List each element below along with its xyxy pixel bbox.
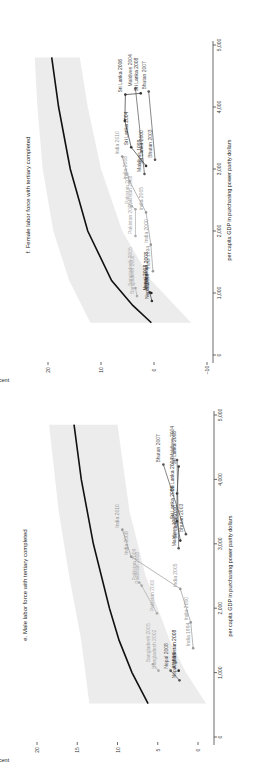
x-tick-label: 2,000 [216, 225, 222, 238]
data-point-label: India 2010 [114, 131, 120, 155]
data-point [134, 287, 137, 290]
data-point [136, 295, 139, 298]
x-tick-label: 4,000 [216, 101, 222, 114]
data-point [156, 612, 159, 615]
data-point-label: Bhutan 2003 [147, 129, 153, 158]
data-point-label: Maldives 2004 [127, 54, 133, 86]
x-tick-label: 5,000 [216, 39, 222, 52]
y-tick-label: 0 [195, 748, 201, 751]
data-point [124, 93, 127, 96]
data-point [134, 208, 137, 211]
x-axis-title: per capita GDP in purchasing power parit… [227, 515, 233, 636]
y-tick-label: 20 [45, 367, 51, 373]
y-axis-title: percent [0, 757, 10, 763]
data-point [162, 463, 165, 466]
data-point [150, 243, 153, 246]
data-point-label: India 1994 [185, 623, 191, 647]
data-point [121, 155, 124, 158]
y-tick-label: 10 [98, 367, 104, 373]
x-tick-label: 3,000 [217, 537, 223, 550]
x-tick-label: 3,000 [216, 163, 222, 176]
data-point [138, 581, 141, 584]
data-point-label: Nepal 2008 [163, 643, 169, 669]
data-point-label: Bangladesh 2002 [151, 630, 157, 669]
data-point-label: Sri Lanka 2006 [117, 59, 123, 93]
data-point-label: Afghanistan 2008 [143, 252, 149, 291]
data-point [169, 669, 172, 672]
data-point-label: Bhutan 2003 [178, 504, 184, 533]
data-point [130, 146, 133, 149]
data-point [176, 459, 179, 462]
female-labor-force-chart: 01,0002,0003,0004,0005,000–1001020per ca… [0, 0, 254, 390]
x-tick-label: 5,000 [217, 409, 223, 422]
y-tick-label: 15 [74, 747, 80, 753]
data-point-label: Maldives 1998 [136, 139, 142, 171]
data-point [177, 465, 180, 468]
y-tick-label: –10 [204, 366, 210, 375]
data-point [143, 173, 146, 176]
data-point [151, 300, 154, 303]
x-tick-label: 2,000 [217, 602, 223, 615]
data-point [121, 528, 124, 531]
data-point-label: India 2005 [138, 187, 144, 211]
data-point [134, 235, 137, 238]
data-point [179, 588, 182, 591]
data-point [179, 539, 182, 542]
y-axis-title: percent [0, 377, 10, 383]
data-point-label: Bhutan 2007 [155, 434, 161, 463]
data-point-label: Sri Lanka 2004 [123, 111, 129, 145]
data-point-label: India 2005 [172, 563, 178, 587]
data-point-label: India 2010 [114, 504, 120, 528]
x-tick-label: 0 [216, 353, 222, 356]
chart-title: f. Female labor force with tertiary comp… [25, 137, 31, 254]
data-point-label: Sri Lanka 2008 [133, 58, 139, 92]
y-tick-label: 10 [115, 747, 121, 753]
data-point [152, 270, 155, 273]
data-point [145, 165, 148, 168]
data-point-label: Bangladesh 2005 [127, 247, 133, 286]
data-point-label: Maldives 2004 [169, 426, 175, 458]
data-point [134, 87, 137, 90]
data-point-label: India 2008 [123, 531, 129, 555]
data-point [192, 647, 195, 650]
data-point [152, 663, 155, 666]
y-tick-label: 20 [34, 747, 40, 753]
chart-panel-male: 01,0002,0003,0004,0005,00005101520per ca… [0, 390, 254, 780]
data-point [145, 211, 148, 214]
x-tick-label: 4,000 [217, 473, 223, 486]
data-point [178, 679, 181, 682]
x-axis-title: per capita GDP in purchasing power parit… [226, 139, 232, 260]
data-point-label: Bangladesh 2005 [145, 623, 151, 662]
data-point-label: Maldives 1998 [171, 514, 177, 546]
data-point [157, 669, 160, 672]
x-tick-label: 1,000 [216, 287, 222, 300]
chart-title: e. Male labor force with tertiary comple… [22, 529, 28, 640]
data-point [130, 205, 133, 208]
y-tick-label: 5 [155, 748, 161, 751]
data-point [177, 547, 180, 550]
data-point [139, 92, 142, 95]
y-tick-label: 0 [151, 368, 157, 371]
data-point [124, 119, 127, 122]
data-point [140, 584, 143, 587]
male-labor-force-chart: 01,0002,0003,0004,0005,00005101520per ca… [0, 390, 254, 780]
data-point-label: India 2000 [183, 597, 189, 621]
data-point-label: Bhutan 2007 [141, 61, 147, 90]
data-point-label: India 2000 [143, 219, 149, 243]
data-point [147, 90, 150, 93]
data-point [177, 669, 180, 672]
x-tick-label: 0 [217, 735, 223, 738]
data-point [189, 621, 192, 624]
data-point-label: Afghanistan 2008 [171, 630, 177, 669]
data-point-label: Pakistan 2009 [124, 172, 130, 204]
data-point-label: Pakistan 2009 [131, 549, 137, 581]
data-point [154, 158, 157, 161]
chart-panel-female: 01,0002,0003,0004,0005,000–1001020per ca… [0, 0, 254, 390]
data-point [150, 292, 153, 295]
data-point [185, 533, 188, 536]
x-tick-label: 1,000 [217, 666, 223, 679]
data-point-label: Pakistan 2000 [149, 579, 155, 611]
